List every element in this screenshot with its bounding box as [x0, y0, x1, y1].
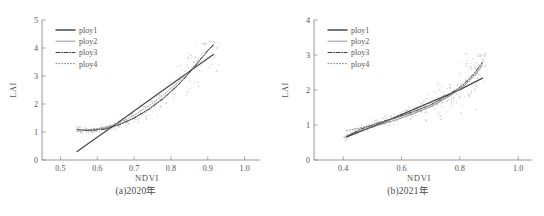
scatter-point	[453, 103, 454, 104]
scatter-point	[381, 117, 382, 118]
scatter-point	[426, 110, 427, 111]
scatter-point	[406, 109, 408, 111]
scatter-point	[88, 133, 89, 134]
scatter-point	[99, 131, 100, 132]
scatter-point	[465, 65, 467, 67]
scatter-point	[166, 102, 167, 103]
scatter-point	[184, 70, 186, 72]
scatter-point	[361, 124, 362, 125]
scatter-point	[453, 97, 455, 99]
scatter-point	[466, 60, 467, 61]
x-tick-label: 0.7	[129, 164, 139, 173]
scatter-point	[441, 86, 442, 87]
x-tick-label: 0.8	[455, 164, 465, 173]
scatter-point	[475, 53, 476, 54]
scatter-point	[196, 43, 197, 44]
scatter-point	[471, 90, 472, 91]
scatter-point	[179, 75, 180, 76]
y-tick-label: 4	[34, 44, 38, 53]
y-tick-label: 5	[34, 16, 38, 25]
scatter-point	[470, 62, 471, 63]
scatter-point	[213, 58, 214, 59]
scatter-point	[453, 100, 454, 101]
scatter-point	[440, 103, 441, 104]
scatter-point	[419, 102, 420, 103]
scatter-point	[169, 82, 170, 83]
scatter-point	[472, 58, 473, 59]
scatter-point	[157, 114, 158, 115]
scatter-point	[166, 103, 168, 105]
scatter-point	[89, 131, 90, 132]
scatter-point	[345, 140, 346, 141]
scatter-point	[475, 84, 476, 85]
scatter-point	[424, 98, 425, 99]
legend-label-ploy2: ploy2	[79, 37, 97, 46]
scatter-point	[189, 80, 190, 81]
scatter-point	[389, 116, 390, 117]
scatter-point	[134, 119, 135, 120]
scatter-point	[162, 100, 163, 101]
scatter-point	[458, 75, 459, 76]
scatter-point	[441, 102, 442, 103]
x-tick-label: 1.0	[240, 164, 250, 173]
scatter-point	[482, 55, 483, 56]
legend-label-ploy3: ploy3	[351, 48, 369, 57]
scatter-point	[128, 123, 130, 125]
scatter-point	[172, 93, 173, 94]
scatter-point	[485, 66, 486, 67]
scatter-point	[409, 118, 411, 120]
scatter-point	[459, 96, 461, 98]
fit-curves-a	[77, 45, 213, 152]
scatter-point	[376, 120, 378, 122]
scatter-point	[116, 129, 117, 130]
scatter-point	[142, 106, 144, 108]
scatter-point	[174, 100, 175, 101]
scatter-point	[409, 107, 410, 108]
scatter-point	[140, 112, 141, 113]
scatter-point	[149, 106, 150, 107]
legend-label-ploy3: ploy3	[79, 48, 97, 57]
scatter-point	[348, 139, 349, 140]
scatter-point	[460, 112, 462, 114]
scatter-point	[484, 65, 485, 66]
scatter-point	[474, 90, 475, 91]
scatter-point	[466, 63, 467, 64]
scatter-point	[114, 122, 115, 123]
scatter-point	[155, 101, 156, 102]
scatter-point	[101, 126, 102, 127]
scatter-point	[451, 105, 452, 106]
scatter-point	[485, 53, 486, 54]
scatter-point	[471, 92, 473, 94]
scatter-point	[211, 52, 212, 53]
legend-label-ploy1: ploy1	[79, 26, 97, 35]
y-tick-label: 2	[306, 86, 310, 95]
scatter-point	[201, 54, 202, 55]
scatter-point	[482, 59, 483, 60]
scatter-point	[448, 84, 450, 86]
scatter-point	[353, 130, 354, 131]
scatter-point	[453, 88, 454, 89]
scatter-point	[465, 53, 467, 55]
legend-label-ploy4: ploy4	[351, 60, 369, 69]
scatter-point	[146, 112, 147, 113]
scatter-point	[449, 106, 450, 107]
scatter-point	[413, 107, 414, 108]
scatter-point	[137, 119, 138, 120]
x-tick-label: 0.8	[166, 164, 176, 173]
scatter-point	[213, 43, 214, 44]
x-axis-title: NDVI	[407, 173, 431, 183]
scatter-point	[453, 99, 454, 100]
scatter-point	[218, 64, 219, 65]
scatter-point	[202, 44, 204, 46]
scatter-point	[384, 124, 386, 126]
scatter-point	[79, 127, 81, 129]
scatter-point	[161, 107, 162, 108]
fit-curve-ploy2	[77, 45, 213, 131]
scatter-point	[481, 76, 482, 77]
scatter-point	[175, 78, 177, 80]
scatter-point	[188, 88, 189, 89]
scatter-point	[149, 114, 150, 115]
scatter-point	[190, 87, 191, 88]
scatter-point	[475, 62, 477, 64]
scatter-point	[456, 93, 458, 95]
